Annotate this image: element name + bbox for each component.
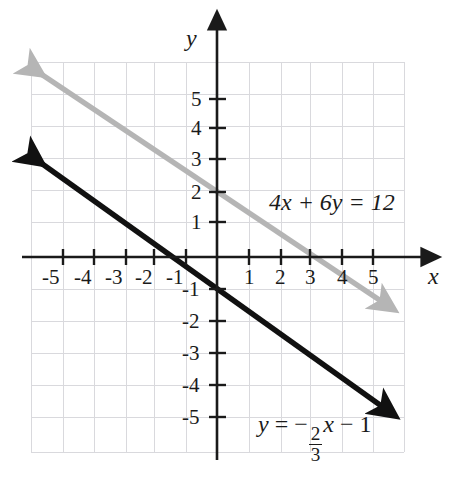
- x-tick-label-5: 5: [368, 267, 379, 288]
- x-tick-label-2: 2: [275, 267, 286, 288]
- eq-black-numerator: 2: [309, 424, 323, 444]
- equation-label-gray-line: 4x + 6y = 12: [269, 190, 395, 214]
- y-tick-label-1: 1: [191, 212, 202, 233]
- eq-black-fraction: 23: [309, 424, 323, 465]
- y-axis-label: y: [186, 26, 197, 50]
- y-tick-label-4: 4: [191, 118, 202, 139]
- y-tick-label--4: -4: [182, 375, 200, 396]
- y-tick-label--5: -5: [182, 407, 200, 428]
- x-axis: [22, 249, 423, 265]
- x-tick-label--5: -5: [42, 267, 60, 288]
- figure-canvas: -5 -4 -3 -2 -1 1 2 3 4 5 5 4 3 2 1 -1 -2…: [0, 0, 468, 479]
- y-tick-label--1: -1: [182, 279, 200, 300]
- eq-black-variable: x: [323, 411, 334, 437]
- eq-black-constant: 1: [360, 411, 372, 437]
- x-tick-label-1: 1: [244, 267, 255, 288]
- equation-label-black-line: y = −23x − 1: [258, 412, 372, 465]
- x-tick-label--2: -2: [135, 267, 153, 288]
- x-tick-label-4: 4: [337, 267, 348, 288]
- y-tick-label-3: 3: [191, 149, 202, 170]
- eq-black-equals: =: [275, 411, 289, 437]
- eq-black-lhs: y: [258, 411, 269, 437]
- eq-black-denominator: 3: [309, 444, 323, 465]
- y-axis: [209, 28, 226, 460]
- x-tick-label-3: 3: [305, 267, 316, 288]
- y-tick-label-5: 5: [191, 89, 202, 110]
- x-tick-label--3: -3: [105, 267, 123, 288]
- equation-gray-text: 4x + 6y = 12: [269, 189, 395, 215]
- eq-black-minus: −: [294, 411, 308, 437]
- x-axis-label: x: [428, 264, 439, 288]
- y-tick-label-2: 2: [191, 182, 202, 203]
- graph-svg: [0, 0, 468, 479]
- x-tick-label--1: -1: [166, 267, 184, 288]
- y-tick-label--2: -2: [182, 311, 200, 332]
- x-tick-label--4: -4: [74, 267, 92, 288]
- y-tick-label--3: -3: [182, 343, 200, 364]
- eq-black-minus-2: −: [340, 411, 354, 437]
